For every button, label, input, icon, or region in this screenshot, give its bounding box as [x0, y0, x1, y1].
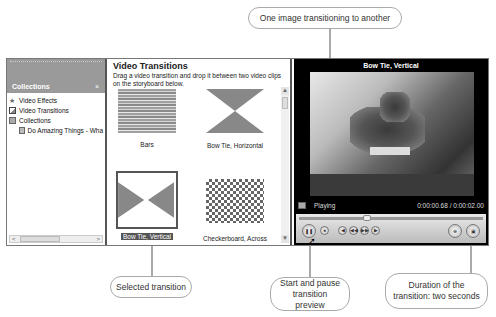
callout-start-pause: Start and pause transition preview: [270, 277, 350, 311]
playback-controls: ❚❚ ● ◀ ◀◀ ▶▶ ▶ ⊕ ▣: [296, 214, 486, 243]
snapshot-button[interactable]: ▣: [466, 224, 480, 238]
seek-bar[interactable]: [299, 217, 483, 220]
monitor-icon: [298, 202, 306, 209]
movie-maker-window: Collections × ★ Video Effects Video Tran…: [6, 58, 489, 246]
tree-item-video-transitions[interactable]: Video Transitions: [9, 105, 103, 115]
playback-time: 0:00:00.68 / 0:00:02.00: [417, 202, 484, 209]
preview-video-frame: [310, 72, 474, 196]
playback-status: Playing: [314, 202, 335, 209]
transitions-pane: Video Transitions Drag a video transitio…: [109, 59, 292, 245]
previous-frame-button[interactable]: ◀: [338, 226, 347, 235]
fast-forward-button[interactable]: ▶▶: [360, 226, 369, 235]
transitions-title: Video Transitions: [113, 61, 290, 71]
transition-checkerboard-across[interactable]: Checkerboard, Across: [203, 179, 267, 242]
scrollbar-thumb[interactable]: [20, 236, 60, 242]
rewind-button[interactable]: ◀◀: [349, 226, 358, 235]
bow-tie-vertical-thumbnail: [116, 171, 178, 229]
transition-bow-tie-vertical[interactable]: Bow Tie, Vertical: [115, 171, 179, 240]
callout-image-transition: One image transitioning to another: [248, 7, 402, 29]
callout-line: [470, 246, 472, 274]
vertical-scrollbar[interactable]: ▲ ▼: [281, 87, 289, 243]
tree-item-collections[interactable]: Collections: [9, 115, 103, 125]
scroll-up-icon[interactable]: ▲: [281, 87, 289, 95]
callout-text: One image transitioning to another: [260, 13, 390, 24]
transitions-description: Drag a video transition and drop it betw…: [113, 72, 286, 88]
preview-title: Bow Tie, Vertical: [294, 59, 488, 72]
checkerboard-thumbnail: [206, 179, 264, 223]
collections-icon: [9, 117, 16, 124]
collections-header: Collections ×: [7, 59, 105, 93]
close-icon[interactable]: ×: [95, 83, 99, 90]
next-frame-button[interactable]: ▶: [371, 226, 380, 235]
callout-line: [151, 246, 153, 276]
cat-shape: [380, 92, 410, 122]
tree-item-video-effects[interactable]: ★ Video Effects: [9, 95, 103, 105]
collections-tree: ★ Video Effects Video Transitions Collec…: [7, 93, 105, 137]
stop-button[interactable]: ●: [320, 226, 329, 235]
horizontal-scrollbar[interactable]: < >: [9, 235, 103, 243]
callout-selected-transition: Selected transition: [110, 276, 192, 298]
collection-folder-icon: [19, 127, 25, 134]
scroll-down-icon[interactable]: ▼: [281, 235, 289, 243]
transition-bow-tie-horizontal[interactable]: Bow Tie, Horizontal: [203, 89, 267, 149]
collections-pane: Collections × ★ Video Effects Video Tran…: [7, 59, 107, 245]
callout-line: [309, 246, 311, 278]
scroll-right-icon[interactable]: >: [96, 236, 100, 242]
bow-tie-horizontal-thumbnail: [206, 89, 264, 133]
collections-title: Collections: [12, 83, 50, 90]
mouse-cursor-icon: ➚: [308, 236, 316, 246]
tree-item-do-amazing-things[interactable]: Do Amazing Things - Wha: [9, 125, 103, 135]
preview-status-bar: Playing 0:00:00.68 / 0:00:02.00: [298, 200, 484, 210]
preview-monitor: Bow Tie, Vertical Playing 0:00:00.68 / 0…: [294, 59, 488, 245]
seek-knob[interactable]: [363, 215, 371, 221]
split-button[interactable]: ⊕: [448, 224, 462, 238]
transition-bars[interactable]: Bars: [115, 89, 179, 148]
scrollbar-thumb[interactable]: [282, 97, 288, 109]
callout-duration: Duration of the transition: two seconds: [385, 273, 488, 309]
star-icon: ★: [9, 97, 16, 104]
bars-thumbnail: [118, 89, 176, 133]
transition-icon: [9, 107, 16, 114]
scroll-left-icon[interactable]: <: [12, 236, 16, 242]
